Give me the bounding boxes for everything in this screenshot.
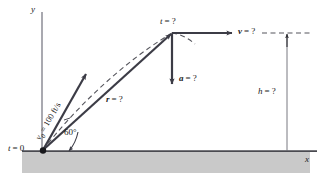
acceleration-value: = ?	[186, 73, 197, 83]
acceleration-label: a= ?	[179, 74, 197, 83]
launch-angle-label: 60°	[64, 128, 77, 137]
position-vector-symbol: r	[106, 94, 110, 104]
height-symbol: h	[258, 86, 263, 96]
x-axis-label: x	[305, 155, 309, 164]
origin-time-label: t= 0	[8, 144, 24, 153]
y-axis-label: y	[31, 5, 35, 14]
origin-time-value: = 0	[13, 143, 25, 153]
position-vector-value: = ?	[112, 94, 123, 104]
acceleration-symbol: a	[179, 73, 184, 83]
apex-time-symbol: t	[160, 16, 163, 26]
figure-canvas	[0, 0, 325, 180]
v0-leader	[64, 118, 70, 120]
projectile-motion-figure: y x t= 0 v0=100 ft/s 60° r= ? t= ? a= ? …	[0, 0, 325, 180]
apex-velocity-symbol: v	[238, 26, 242, 36]
apex-velocity-value: = ?	[244, 26, 255, 36]
trajectory-curve-descending	[172, 33, 195, 44]
origin-time-symbol: t	[8, 143, 11, 153]
apex-time-label: t= ?	[160, 17, 176, 26]
origin-point	[40, 147, 46, 153]
position-vector-label: r= ?	[106, 95, 123, 104]
height-value: = ?	[265, 86, 276, 96]
apex-time-value: = ?	[165, 16, 176, 26]
height-label: h= ?	[258, 87, 276, 96]
apex-velocity-label: v= ?	[238, 27, 255, 36]
position-vector	[43, 34, 171, 150]
ground-band	[22, 152, 310, 173]
